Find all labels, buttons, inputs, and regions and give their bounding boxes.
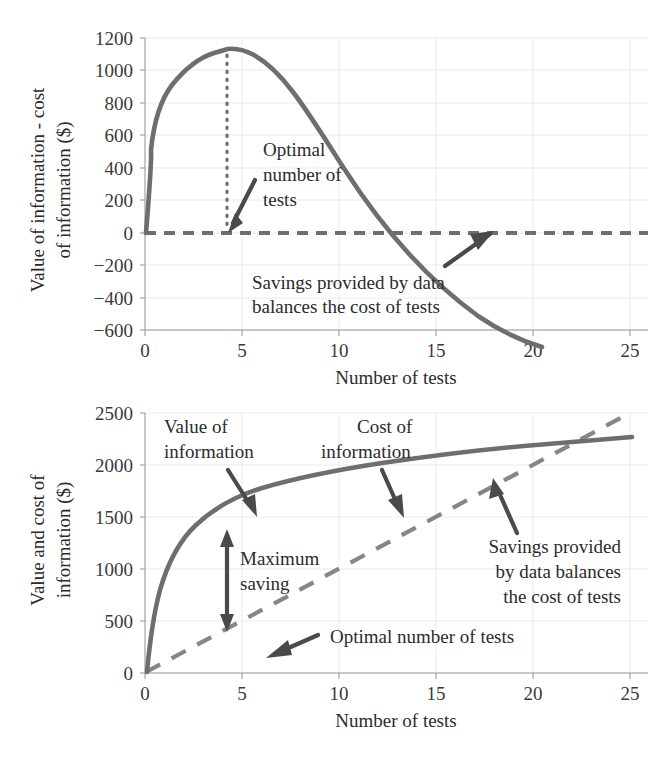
value-and-cost-chart-svg: 2500 2000 1500 1000 500 0 0 5 10 15 20 2… bbox=[0, 390, 664, 781]
maximum-saving-arrow-head-top bbox=[220, 529, 234, 547]
value-and-cost-chart-figure: 2500 2000 1500 1000 500 0 0 5 10 15 20 2… bbox=[0, 390, 664, 781]
annotation-savings-balances-cost: Savings provided by data balances the co… bbox=[252, 272, 445, 317]
x-tick-label: 25 bbox=[621, 340, 640, 361]
y-tick-label: 600 bbox=[105, 125, 134, 146]
y-tick-label: −200 bbox=[94, 255, 133, 276]
annotation-cost-of-information: Cost of information bbox=[321, 416, 413, 462]
y-axis-title-line2: information ($) bbox=[53, 482, 75, 599]
annotation-savings-balances-cost: Savings provided by data balances the co… bbox=[489, 536, 622, 607]
y-tick-marks bbox=[140, 413, 145, 673]
optimal-annotation-arrow-head bbox=[228, 213, 243, 233]
x-tick-label: 15 bbox=[427, 683, 446, 704]
x-axis-title: Number of tests bbox=[335, 367, 456, 388]
x-tick-label: 10 bbox=[330, 340, 349, 361]
annotation-line: Cost of bbox=[357, 416, 413, 437]
y-tick-label: 200 bbox=[105, 190, 134, 211]
x-tick-label: 0 bbox=[140, 683, 150, 704]
annotation-line: saving bbox=[240, 573, 290, 594]
annotation-line: number of bbox=[263, 164, 342, 185]
annotation-line: Maximum bbox=[240, 548, 319, 569]
annotation-line: information bbox=[164, 441, 254, 462]
annotation-line: Value of bbox=[164, 416, 229, 437]
y-axis-title-line1: Value of information - cost bbox=[27, 87, 48, 292]
y-tick-label: 2000 bbox=[95, 455, 133, 476]
annotation-line: information bbox=[321, 441, 411, 462]
y-tick-label: 0 bbox=[124, 663, 134, 684]
optimal-annotation-arrow-head bbox=[266, 640, 292, 658]
y-tick-label: 0 bbox=[124, 223, 134, 244]
y-tick-label: 500 bbox=[105, 611, 134, 632]
y-tick-label: 1200 bbox=[95, 28, 133, 49]
annotation-optimal-number-of-tests: Optimal number of tests bbox=[330, 626, 514, 647]
y-tick-label: −600 bbox=[94, 320, 133, 341]
annotation-line: Optimal bbox=[263, 139, 325, 160]
y-tick-marks bbox=[140, 38, 145, 330]
annotation-value-of-information: Value of information bbox=[164, 416, 254, 462]
net-value-chart-figure: 1200 1000 800 600 400 200 0 −200 −400 −6… bbox=[0, 0, 664, 390]
y-tick-label: 2500 bbox=[95, 403, 133, 424]
x-tick-label: 25 bbox=[621, 683, 640, 704]
x-tick-label: 20 bbox=[524, 683, 543, 704]
x-tick-label: 10 bbox=[330, 683, 349, 704]
annotation-line: by data balances bbox=[495, 561, 621, 582]
x-axis-title: Number of tests bbox=[335, 710, 456, 731]
net-value-chart-svg: 1200 1000 800 600 400 200 0 −200 −400 −6… bbox=[0, 0, 664, 390]
x-tick-label: 15 bbox=[427, 340, 446, 361]
annotation-line: balances the cost of tests bbox=[252, 296, 440, 317]
y-axis-title-line1: Value and cost of bbox=[27, 474, 48, 606]
y-tick-label: 1000 bbox=[95, 559, 133, 580]
y-tick-label: 1000 bbox=[95, 60, 133, 81]
x-tick-label: 0 bbox=[140, 340, 150, 361]
annotation-line: the cost of tests bbox=[503, 586, 621, 607]
annotation-line: Savings provided by data bbox=[252, 272, 445, 293]
y-tick-label: −400 bbox=[94, 288, 133, 309]
annotation-line: Savings provided bbox=[489, 536, 622, 557]
x-tick-marks bbox=[145, 330, 630, 336]
y-tick-label: 1500 bbox=[95, 507, 133, 528]
y-tick-label: 800 bbox=[105, 93, 134, 114]
x-tick-label: 5 bbox=[237, 683, 247, 704]
x-tick-label: 5 bbox=[237, 340, 247, 361]
annotation-line: tests bbox=[263, 189, 297, 210]
y-tick-label: 400 bbox=[105, 158, 134, 179]
y-axis-title-line2: of information ($) bbox=[53, 121, 75, 258]
cost-annotation-arrow-head bbox=[388, 494, 404, 518]
x-tick-marks bbox=[145, 673, 630, 679]
